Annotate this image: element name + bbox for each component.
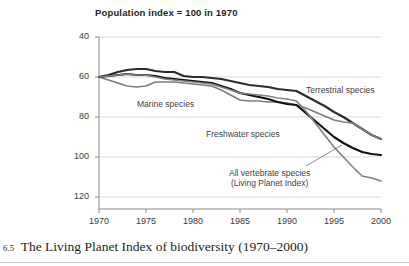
leader-lines (306, 145, 342, 166)
x-tick-label: 1980 (176, 216, 210, 226)
series-label-3: All vertebrate species(Living Planet Ind… (229, 168, 310, 188)
figure-living-planet-index: Population index = 100 in 1970 120100806… (0, 0, 409, 266)
x-tick-label: 1995 (317, 216, 351, 226)
y-tick-label: 80 (63, 111, 89, 121)
y-tick-label: 60 (63, 71, 89, 81)
series-label-0: Terrestrial species (306, 85, 375, 95)
x-tick-label: 1970 (82, 216, 116, 226)
chart-plot-area: 120100806040 197019751980198519901995200… (0, 0, 409, 232)
y-tick-label: 100 (63, 151, 89, 161)
x-tick-label: 1975 (129, 216, 163, 226)
x-tick-label: 2000 (364, 216, 398, 226)
chart-svg (0, 0, 409, 232)
annotation-leader-line (306, 145, 342, 166)
y-tick-label: 40 (63, 31, 89, 41)
caption-number: 6.5 (3, 243, 14, 253)
series-label-line2: (Living Planet Index) (229, 178, 310, 188)
figure-caption: 6.5 The Living Planet Index of biodivers… (3, 239, 407, 255)
series-label-2: Freshwater species (206, 129, 280, 139)
bottom-divider (0, 262, 409, 263)
y-tick-label: 120 (63, 191, 89, 201)
x-tick-label: 1985 (223, 216, 257, 226)
caption-text: The Living Planet Index of biodiversity … (21, 239, 308, 254)
series-label-1: Marine species (137, 99, 194, 109)
x-tick-label: 1990 (270, 216, 304, 226)
series-label-line1: All vertebrate species (229, 168, 310, 178)
